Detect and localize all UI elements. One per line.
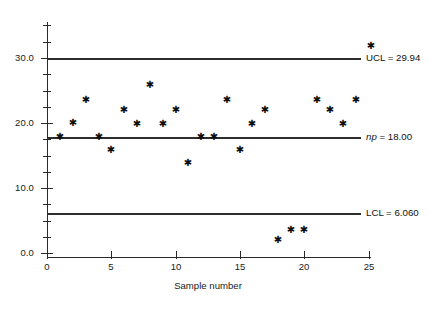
data-point: ✱ [197,132,205,142]
y-tick-label-0: 0.0 [0,248,34,258]
data-point: ✱ [172,105,180,115]
np-control-chart: 30.0 20.0 10.0 0.0 0 5 10 15 20 25 UC [0,0,446,314]
data-point: ✱ [313,95,321,105]
x-tick-0 [47,251,48,259]
y-tick-10 [41,188,53,189]
x-tick-label-25: 25 [354,262,384,272]
data-point: ✱ [56,132,64,142]
x-axis-title: Sample number [138,281,278,291]
ucl-label: UCL = 29.94 [366,53,420,63]
y-minor-tick [43,74,51,75]
data-point: ✱ [300,225,308,235]
data-point: ✱ [210,132,218,142]
y-minor-tick [43,107,51,108]
data-point: ✱ [261,105,269,115]
data-point: ✱ [69,118,77,128]
data-point: ✱ [236,145,244,155]
y-minor-tick [43,204,51,205]
y-minor-tick [43,91,51,92]
y-tick-label-20: 20.0 [0,118,34,128]
x-tick-label-5: 5 [96,262,126,272]
y-minor-tick [43,42,51,43]
plot-area: 30.0 20.0 10.0 0.0 0 5 10 15 20 25 UC [0,0,446,314]
data-point: ✱ [107,145,115,155]
ucl-line [47,58,361,60]
data-point: ✱ [287,225,295,235]
x-tick-label-15: 15 [225,262,255,272]
y-tick-label-10: 10.0 [0,183,34,193]
data-point: ✱ [146,80,154,90]
y-tick-label-30: 30.0 [0,53,34,63]
center-line-label-italic: np [366,131,377,142]
data-point: ✱ [120,105,128,115]
center-line-label-value: = 18.00 [377,131,412,142]
x-tick-25 [369,251,370,259]
center-line-label: np = 18.00 [366,132,412,142]
data-point: ✱ [184,158,192,168]
x-tick-label-10: 10 [161,262,191,272]
y-minor-tick [43,237,51,238]
y-tick-20 [41,123,53,124]
data-point: ✱ [326,105,334,115]
x-tick-10 [176,251,177,259]
x-tick-5 [111,251,112,259]
data-point: ✱ [367,41,375,51]
y-minor-tick [43,139,51,140]
y-minor-tick [43,172,51,173]
x-tick-15 [240,251,241,259]
data-point: ✱ [339,119,347,129]
data-point: ✱ [274,235,282,245]
x-tick-label-20: 20 [289,262,319,272]
x-tick-label-0: 0 [32,262,62,272]
x-axis-line [47,257,371,258]
data-point: ✱ [82,95,90,105]
x-tick-20 [304,251,305,259]
y-minor-tick [43,156,51,157]
y-minor-tick [43,25,51,26]
data-point: ✱ [159,119,167,129]
data-point: ✱ [133,119,141,129]
data-point: ✱ [95,132,103,142]
lcl-line [47,213,361,215]
data-point: ✱ [352,95,360,105]
y-minor-tick [43,221,51,222]
data-point: ✱ [248,119,256,129]
lcl-label: LCL = 6.060 [366,208,419,218]
data-point: ✱ [223,95,231,105]
